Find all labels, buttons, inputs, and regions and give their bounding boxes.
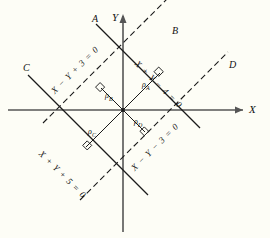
origin-point (121, 108, 125, 112)
rho-b-subscript: B (109, 96, 113, 102)
rho-d-subscript: D (138, 122, 143, 128)
line-end-label-a: A (92, 14, 98, 24)
rho-b-label: ρB (105, 92, 113, 102)
rho-d-label: ρD (134, 118, 143, 128)
line-end-label-c: C (23, 63, 30, 73)
y-axis-label: Y (112, 12, 118, 23)
rho-a-label: ρA (142, 81, 150, 91)
rho-a-subscript: A (146, 85, 150, 91)
rho-c-label: ρC (88, 128, 96, 138)
geometry-figure: X Y A B C D X + Y − 4 = 0 X − Y + 3 = 0 … (0, 0, 270, 238)
y-axis-arrowhead (120, 14, 127, 23)
x-axis-arrowhead (235, 107, 243, 114)
line-end-label-d: D (229, 60, 236, 70)
x-axis-label: X (249, 104, 256, 115)
rho-c-subscript: C (92, 132, 96, 138)
line-end-label-b: B (172, 26, 178, 36)
line-b (43, 0, 172, 123)
